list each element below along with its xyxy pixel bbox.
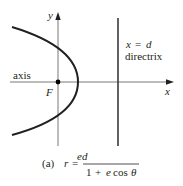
x-axis-arrow-icon xyxy=(166,79,174,84)
caption-denominator-cos: cos xyxy=(113,166,128,178)
directrix-eq-rhs: d xyxy=(146,38,152,50)
caption-numerator: ed xyxy=(77,150,88,162)
directrix-eq-sign: = xyxy=(135,38,141,50)
directrix-label: directrix xyxy=(125,50,163,62)
x-axis-label: x xyxy=(164,85,170,97)
caption-denominator-one: 1 xyxy=(86,166,92,178)
caption-denominator-plus: + xyxy=(95,166,101,178)
focus-point xyxy=(56,80,61,85)
caption-lhs: r xyxy=(64,157,69,169)
axis-text: axis xyxy=(13,69,31,81)
parabola-curve xyxy=(12,27,78,135)
focus-label: F xyxy=(45,86,53,98)
y-axis-arrow-icon xyxy=(55,12,60,20)
conic-diagram: y x F axis x = d directrix (a) r = ed 1 … xyxy=(0,0,183,186)
caption-denominator-theta: θ xyxy=(131,166,137,178)
caption-denominator-e: e xyxy=(106,166,111,178)
caption-tag: (a) xyxy=(42,157,55,170)
directrix-eq-lhs: x xyxy=(125,38,131,50)
y-axis-label: y xyxy=(47,9,53,21)
